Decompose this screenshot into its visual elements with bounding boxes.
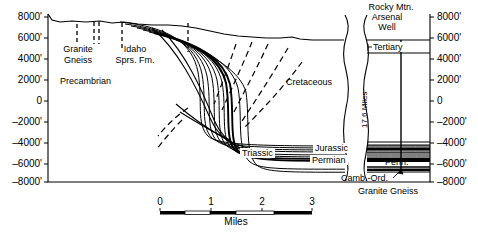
topographic-surface: [48, 14, 344, 40]
scale-tick-3: 3: [304, 197, 320, 207]
right-tick-8000: 8000': [437, 12, 461, 22]
label-cretaceous: Cretaceous: [286, 77, 332, 87]
label-idaho-springs-1: Idaho: [108, 44, 162, 54]
right-tick-4000: 4000': [437, 54, 461, 64]
left-tick-m6000: –6000': [0, 159, 42, 169]
label-triassic: Triassic: [240, 148, 275, 158]
camb-ord-leader: [393, 170, 403, 178]
left-axis-ticks: [44, 17, 48, 182]
label-granite-gneiss-left-1: Granite: [52, 44, 104, 54]
well-title-line-1: Rocky Mtn.: [360, 2, 422, 12]
label-pennsylvanian: Penn.: [385, 157, 409, 167]
scale-tick-2: 2: [254, 197, 270, 207]
left-tick-8000: 8000': [0, 12, 42, 22]
scale-tick-0: 0: [152, 197, 168, 207]
left-tick-2000: 2000': [0, 75, 42, 85]
right-tick-2000: 2000': [437, 75, 461, 85]
right-tick-m4000: –4000': [437, 138, 467, 148]
well-title-line-2: Arsenal: [358, 12, 416, 22]
left-tick-m2000: –2000': [0, 117, 42, 127]
right-axis-ticks: [430, 17, 434, 182]
left-tick-0: 0: [0, 96, 42, 106]
right-tick-0: 0: [437, 96, 443, 106]
label-permian: Permian: [310, 155, 348, 165]
right-tick-m2000: –2000': [437, 117, 467, 127]
right-tick-m8000: –8000': [437, 177, 467, 187]
label-granite-gneiss-left-2: Gneiss: [52, 55, 104, 65]
scale-tick-1: 1: [203, 197, 219, 207]
left-tick-m4000: –4000': [0, 138, 42, 148]
label-break-distance: 17.6 Miles: [360, 92, 369, 128]
cross-section-drawing: [0, 0, 478, 233]
right-tick-6000: 6000': [437, 33, 461, 43]
cross-section-figure: 8000' 6000' 4000' 2000' 0 –2000' –4000' …: [0, 0, 478, 233]
label-precambrian: Precambrian: [60, 76, 111, 86]
right-tick-m6000: –6000': [437, 159, 467, 169]
scale-bar-caption: Miles: [206, 217, 266, 227]
scale-bar-graphic: [160, 208, 312, 215]
label-granite-gneiss-right: Granite Gneiss: [358, 186, 418, 196]
label-idaho-springs-2: Sprs. Fm.: [104, 55, 166, 65]
right-panel-upper-beds: [367, 142, 430, 145]
label-cambrian-ordovician: Camb.-Ord.: [341, 173, 388, 183]
left-tick-4000: 4000': [0, 54, 42, 64]
left-tick-m8000: –8000': [0, 177, 42, 187]
well-title-line-3: Well: [358, 22, 416, 32]
label-jurassic: Jurassic: [313, 143, 350, 153]
label-tertiary: Tertiary: [372, 42, 404, 52]
left-tick-6000: 6000': [0, 33, 42, 43]
